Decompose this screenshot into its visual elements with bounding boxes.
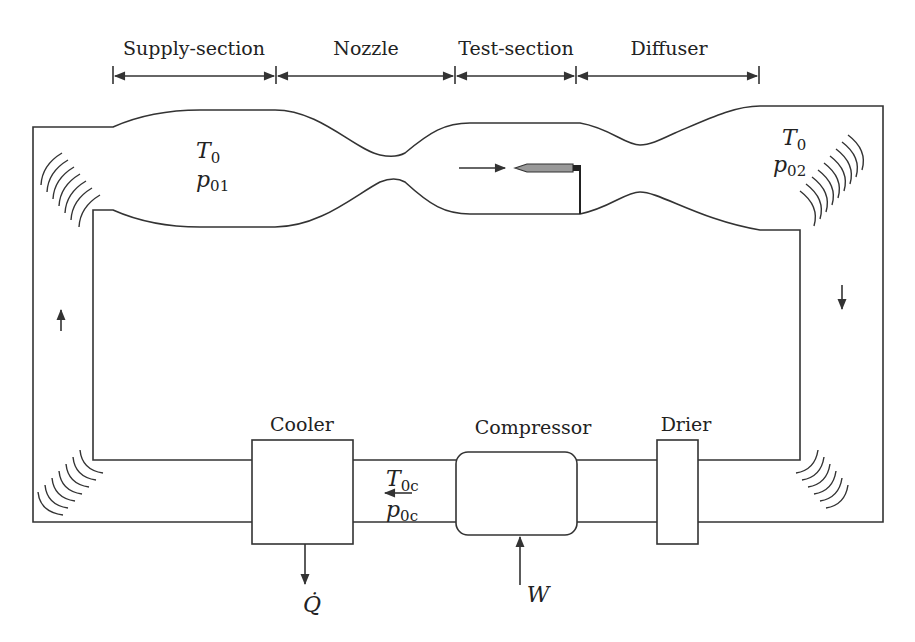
label-supply-pressure: p01 (196, 167, 229, 195)
label-diffuser: Diffuser (630, 37, 708, 59)
label-compressor: Compressor (475, 416, 592, 438)
label-heat-rate: Q̇ (303, 592, 321, 617)
label-diffuser-temperature: T0 (782, 125, 806, 154)
label-cooler: Cooler (270, 413, 335, 435)
label-diffuser-pressure: p02 (773, 152, 806, 180)
label-supply-temperature: T0 (196, 138, 220, 167)
pitot-probe (515, 164, 581, 214)
section-dimension-lines (113, 66, 759, 84)
wind-tunnel-diagram: Supply-section Nozzle Test-section Diffu… (0, 0, 915, 642)
turning-vanes-top-left (41, 153, 100, 227)
label-supply-section: Supply-section (123, 37, 265, 59)
label-return-pressure: p0c (386, 497, 418, 525)
turning-vanes-top-right (800, 135, 863, 226)
cooler-box (252, 440, 353, 544)
label-test-section: Test-section (458, 37, 573, 59)
label-return-temperature: T0c (386, 466, 419, 495)
label-drier: Drier (661, 413, 713, 435)
label-nozzle: Nozzle (333, 37, 398, 59)
turning-vanes-bottom-right (796, 450, 848, 508)
compressor-box (456, 452, 577, 535)
label-work: W (527, 582, 552, 607)
drier-box (657, 440, 698, 544)
